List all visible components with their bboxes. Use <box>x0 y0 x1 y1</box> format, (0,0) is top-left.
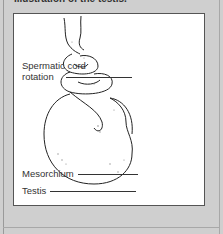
label-spermatic-cord-line1: Spermatic cord <box>22 60 86 71</box>
figure-caption: Illustration of the testis. <box>14 0 127 4</box>
leader-mesorchium <box>78 174 138 175</box>
outer-frame-left <box>3 0 4 234</box>
leader-testis <box>50 191 136 192</box>
outer-frame-right <box>219 0 220 234</box>
outer-frame-bottom <box>3 227 220 228</box>
figure-panel: Spermatic cord rotation Mesorchium Testi… <box>13 13 205 206</box>
leader-spermatic-cord <box>66 77 132 78</box>
label-mesorchium: Mesorchium <box>22 168 74 179</box>
label-spermatic-cord-rotation: Spermatic cord rotation <box>22 60 86 82</box>
label-testis: Testis <box>22 185 46 196</box>
